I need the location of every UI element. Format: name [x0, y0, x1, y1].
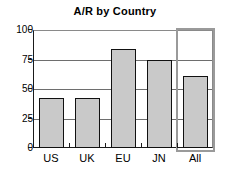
y-axis: 0255075100	[0, 0, 33, 179]
x-axis-category-label: UK	[69, 152, 105, 165]
x-axis-category-label: All	[177, 152, 213, 165]
y-axis-tick-label: 0	[5, 143, 33, 153]
x-axis-category-label: JN	[141, 152, 177, 165]
bar[interactable]	[183, 76, 208, 148]
x-axis-tick-mark	[141, 143, 142, 148]
bar[interactable]	[147, 60, 172, 149]
x-axis-tick-mark	[177, 143, 178, 148]
y-axis-tick-mark	[28, 118, 32, 119]
y-axis-tick-label: 75	[5, 55, 33, 65]
y-axis-tick-label: 100	[5, 25, 33, 35]
y-axis-tick-label: 50	[5, 84, 33, 94]
y-axis-tick-mark	[28, 59, 32, 60]
bar[interactable]	[75, 98, 100, 148]
y-axis-tick-label: 25	[5, 114, 33, 124]
y-axis-tick-mark	[28, 147, 32, 148]
bar[interactable]	[39, 98, 64, 148]
x-axis-category-label: US	[33, 152, 69, 165]
y-axis-tick-mark	[28, 29, 32, 30]
bar-chart: A/R by Country 0255075100 USUKEUJNAll	[0, 0, 230, 179]
x-axis-category-label: EU	[105, 152, 141, 165]
y-axis-tick-mark	[28, 88, 32, 89]
chart-title: A/R by Country	[0, 5, 230, 18]
x-axis-tick-mark	[105, 143, 106, 148]
x-axis-tick-mark	[69, 143, 70, 148]
bar[interactable]	[111, 49, 136, 148]
